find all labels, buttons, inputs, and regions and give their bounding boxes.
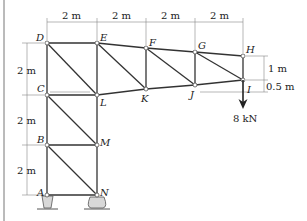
- node-label-M: M: [99, 137, 111, 148]
- right-dimensions: [50, 56, 268, 92]
- node-label-A: A: [36, 187, 44, 198]
- dim-left-1: 2 m: [17, 65, 37, 76]
- dim-left-2: 2 m: [17, 115, 37, 126]
- dim-top-2: 2 m: [112, 10, 132, 21]
- rocker-support-N: [84, 197, 110, 209]
- node-label-B: B: [36, 134, 44, 145]
- node-label-G: G: [198, 40, 206, 51]
- dim-right-2: 0.5 m: [266, 81, 295, 92]
- node-label-C: C: [37, 83, 45, 94]
- node-label-F: F: [148, 37, 157, 48]
- dim-top-4: 2 m: [210, 10, 230, 21]
- node-label-J: J: [188, 89, 195, 100]
- node-label-N: N: [99, 187, 110, 198]
- node-label-E: E: [99, 32, 108, 43]
- node-label-H: H: [245, 44, 255, 55]
- dim-right-1: 1 m: [268, 63, 288, 74]
- load-label: 8 kN: [233, 113, 258, 124]
- truss-members: [47, 43, 243, 195]
- node-label-K: K: [140, 93, 149, 104]
- dim-top-1: 2 m: [62, 10, 82, 21]
- node-label-I: I: [246, 84, 252, 95]
- dim-top-3: 2 m: [161, 10, 181, 21]
- truss-diagram: 2 m 2 m 2 m 2 m 2 m 2 m 2 m 1 m 0.5 m: [0, 0, 307, 221]
- dim-left-3: 2 m: [17, 165, 37, 176]
- node-label-D: D: [35, 32, 44, 43]
- node-label-L: L: [99, 97, 107, 108]
